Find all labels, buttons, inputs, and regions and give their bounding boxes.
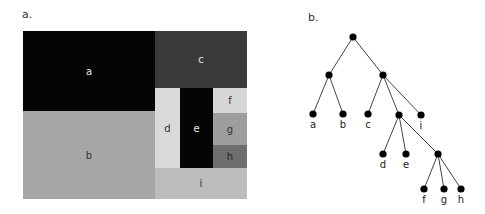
treemap-cell-i: i — [155, 168, 247, 199]
tree-node-e — [402, 150, 409, 157]
treemap-cell-d: d — [155, 88, 180, 168]
tree-node-d — [379, 150, 386, 157]
tree-node-label: e — [403, 159, 409, 170]
treemap-cell-label: i — [200, 178, 203, 189]
panel-a-label: a. — [22, 8, 32, 21]
tree-node-label: a — [310, 119, 316, 130]
treemap-cell-b: b — [23, 111, 155, 199]
treemap-cell-e: e — [180, 88, 213, 168]
tree-node-a — [309, 110, 316, 117]
tree-edge — [383, 75, 421, 115]
tree-edge — [424, 154, 438, 189]
treemap-cell-label: a — [86, 66, 92, 77]
tree-edge — [329, 75, 343, 114]
treemap-cell-label: g — [227, 124, 233, 135]
treemap-cell-label: h — [227, 151, 233, 162]
tree-node-root — [349, 33, 356, 40]
tree-node-g — [440, 185, 447, 192]
tree-node-label: g — [441, 194, 447, 205]
treemap-cell-label: f — [228, 95, 232, 106]
treemap-cell-f: f — [213, 88, 247, 113]
tree-node-i — [417, 111, 424, 118]
tree-node-label: h — [458, 194, 464, 205]
tree-node-label: i — [420, 120, 423, 131]
tree-diagram: abcidefgh — [290, 0, 485, 214]
tree-node-n4 — [434, 150, 441, 157]
tree-node-b — [339, 110, 346, 117]
tree-node-label: d — [380, 159, 386, 170]
tree-edge — [353, 37, 383, 75]
treemap-cell-label: d — [164, 123, 170, 134]
tree-node-c — [364, 110, 371, 117]
treemap-cell-h: h — [213, 145, 247, 168]
treemap-cell-c: c — [155, 31, 247, 88]
treemap-cell-g: g — [213, 113, 247, 145]
tree-node-f — [420, 185, 427, 192]
tree-node-label: b — [340, 119, 346, 130]
tree-node-label: c — [365, 119, 371, 130]
tree-node-h — [457, 185, 464, 192]
treemap-cell-label: b — [86, 150, 92, 161]
tree-node-n2 — [379, 71, 386, 78]
treemap-cell-label: e — [193, 123, 199, 134]
tree-node-n1 — [325, 71, 332, 78]
tree-node-n3 — [395, 111, 402, 118]
treemap-cell-a: a — [23, 31, 155, 111]
treemap-cell-label: c — [198, 54, 204, 65]
tree-svg — [290, 0, 485, 214]
treemap: abcdefghi — [23, 31, 247, 199]
tree-edge — [329, 37, 353, 75]
tree-edge — [313, 75, 329, 114]
tree-edge — [383, 115, 399, 154]
tree-node-label: f — [422, 194, 426, 205]
tree-edge — [383, 75, 399, 115]
tree-edge — [368, 75, 383, 114]
